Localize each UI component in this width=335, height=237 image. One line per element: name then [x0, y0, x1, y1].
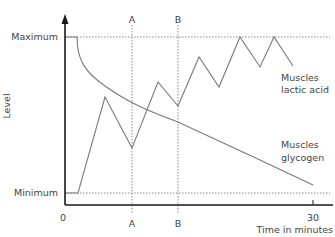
marker-a-top-label: A: [129, 14, 136, 25]
marker-b-top-label: B: [175, 14, 182, 25]
y-axis-title: Level: [1, 93, 12, 118]
marker-a-bottom-label: A: [129, 218, 136, 229]
lactic-label-line2: lactic acid: [281, 84, 329, 95]
x-end-label: 30: [307, 212, 319, 223]
x-zero-label: 0: [60, 212, 66, 223]
chart-canvas: Maximum Minimum Level 0 30 Time in minut…: [0, 0, 335, 237]
x-axis-title: Time in minutes: [256, 224, 333, 235]
y-axis-arrow-icon: [62, 14, 69, 24]
marker-b-bottom-label: B: [175, 218, 182, 229]
glycogen-label-line2: glycogen: [281, 152, 324, 163]
glycogen-curve: [65, 37, 313, 185]
y-min-label: Minimum: [14, 187, 58, 198]
lactic-label-line1: Muscles: [281, 72, 319, 83]
lactic-acid-curve: [65, 37, 293, 193]
y-max-label: Maximum: [11, 31, 58, 42]
glycogen-label-line1: Muscles: [281, 139, 319, 150]
